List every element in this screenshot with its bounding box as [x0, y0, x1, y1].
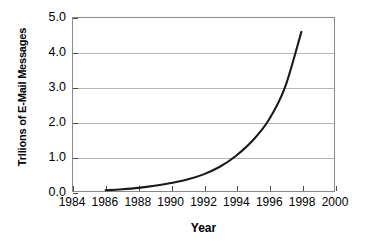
plot-area — [72, 17, 335, 192]
x-axis-tick — [336, 186, 337, 191]
y-axis-tick-label: 3.0 — [30, 81, 66, 94]
x-axis-tick-labels: 198419861988199019921994199619982000 — [72, 196, 335, 214]
y-axis-tick — [73, 193, 78, 194]
x-axis-tick-label: 2000 — [313, 196, 357, 208]
series-line-email-messages — [73, 18, 334, 191]
y-axis-tick-labels: 5.04.03.02.01.00.0 — [30, 0, 66, 252]
plot-inner — [73, 18, 334, 191]
x-axis-title: Year — [72, 222, 335, 234]
y-axis-tick-label: 2.0 — [30, 116, 66, 129]
chart-figure: Trllions of E-Mail Messages 5.04.03.02.0… — [0, 0, 365, 252]
y-axis-tick-label: 5.0 — [30, 11, 66, 24]
y-axis-tick-label: 4.0 — [30, 46, 66, 59]
y-axis-tick-label: 1.0 — [30, 151, 66, 164]
